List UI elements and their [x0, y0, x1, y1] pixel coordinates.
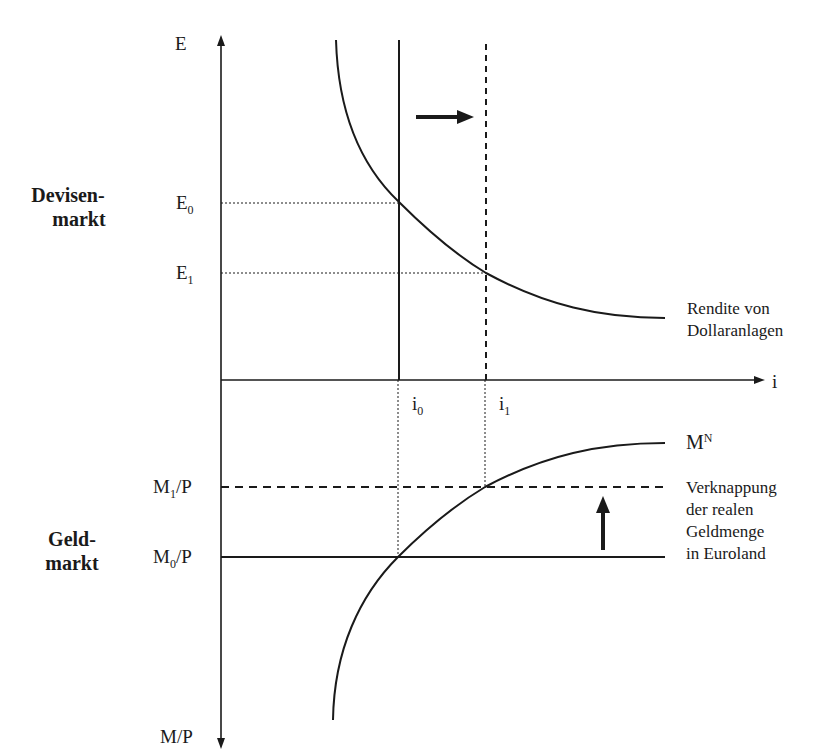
- arrow-up-icon: [217, 35, 225, 46]
- x-axis-label-i: i: [772, 372, 777, 391]
- y-axis-label-mp: M/P: [160, 727, 193, 746]
- diagram-canvas: [0, 0, 827, 754]
- arrow-right-icon: [754, 376, 765, 384]
- label-m1-p: M1/P: [153, 477, 192, 500]
- panel-title-geldmarkt: Geld- markt: [32, 527, 112, 575]
- panel-title-line1: Geld-: [32, 527, 112, 551]
- panel-title-line1: Devisen-: [18, 183, 118, 207]
- label-i0: i0: [412, 394, 423, 417]
- panel-title-devisenmarkt: Devisen- markt: [18, 183, 118, 231]
- label-line: Geldmenge: [686, 521, 777, 543]
- label-line: Rendite von: [687, 298, 783, 320]
- label-money-tightening: Verknappung der realen Geldmenge in Euro…: [686, 477, 777, 565]
- arrow-up-head-icon: [596, 496, 610, 513]
- label-dollar-return: Rendite von Dollaranlagen: [687, 298, 783, 342]
- label-line: in Euroland: [686, 543, 777, 565]
- arrow-down-icon: [217, 738, 225, 749]
- label-m0-p: M0/P: [153, 547, 192, 570]
- arrow-right-head-icon: [457, 110, 474, 124]
- panel-title-line2: markt: [18, 207, 118, 231]
- label-e0: E0: [176, 193, 194, 216]
- label-e1: E1: [176, 263, 194, 286]
- label-line: der realen: [686, 499, 777, 521]
- label-money-demand: MN: [686, 432, 712, 452]
- panel-title-line2: markt: [32, 551, 112, 575]
- money-demand-curve: [333, 443, 665, 720]
- dollar-return-curve: [336, 40, 665, 318]
- y-axis-label-e: E: [175, 34, 187, 53]
- label-i1: i1: [499, 394, 510, 417]
- label-line: Verknappung: [686, 477, 777, 499]
- label-line: Dollaranlagen: [687, 320, 783, 342]
